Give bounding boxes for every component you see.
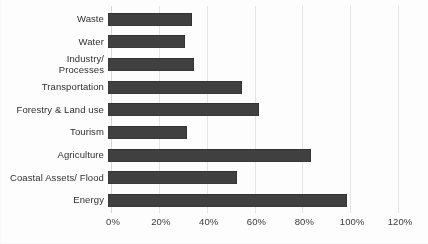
bar-track: [108, 99, 428, 122]
category-label: Energy: [0, 195, 108, 206]
category-label: Transportation: [0, 82, 108, 93]
bar-track: [108, 31, 428, 54]
bar: [108, 194, 347, 207]
category-label: Industry/ Processes: [0, 54, 108, 75]
bar-track: [108, 189, 428, 212]
bar: [108, 35, 185, 48]
bar-row: Waste: [0, 8, 428, 31]
x-tick-label: 40%: [199, 216, 218, 228]
x-tick-label: 0%: [106, 216, 120, 228]
bar-row: Water: [0, 31, 428, 54]
bar-track: [108, 144, 428, 167]
category-label: Tourism: [0, 127, 108, 138]
bar: [108, 58, 194, 71]
bar-track: [108, 167, 428, 190]
x-axis-tick-labels: 0%20%40%60%80%100%120%: [0, 216, 428, 232]
bar-track: [108, 121, 428, 144]
bar: [108, 149, 311, 162]
x-tick-label: 20%: [151, 216, 170, 228]
bar-row: Forestry & Land use: [0, 99, 428, 122]
category-label: Forestry & Land use: [0, 105, 108, 116]
x-tick-label: 80%: [295, 216, 314, 228]
bar-row: Transportation: [0, 76, 428, 99]
category-label: Water: [0, 37, 108, 48]
x-tick-label: 120%: [388, 216, 413, 228]
bar: [108, 171, 237, 184]
category-label: Coastal Assets/ Flood: [0, 173, 108, 184]
bar-row: Industry/ Processes: [0, 53, 428, 76]
bar-row: Energy: [0, 189, 428, 212]
bar: [108, 103, 259, 116]
bar-row: Tourism: [0, 121, 428, 144]
bar-track: [108, 53, 428, 76]
horizontal-bar-chart: WasteWaterIndustry/ ProcessesTransportat…: [0, 0, 428, 244]
x-tick-label: 60%: [247, 216, 266, 228]
category-label: Agriculture: [0, 150, 108, 161]
bar-track: [108, 8, 428, 31]
x-tick-label: 100%: [340, 216, 365, 228]
bar-row: Agriculture: [0, 144, 428, 167]
bar: [108, 81, 242, 94]
bar-rows: WasteWaterIndustry/ ProcessesTransportat…: [0, 8, 428, 212]
bar: [108, 126, 187, 139]
category-label: Waste: [0, 14, 108, 25]
bar-row: Coastal Assets/ Flood: [0, 167, 428, 190]
bar: [108, 13, 192, 26]
bar-track: [108, 76, 428, 99]
